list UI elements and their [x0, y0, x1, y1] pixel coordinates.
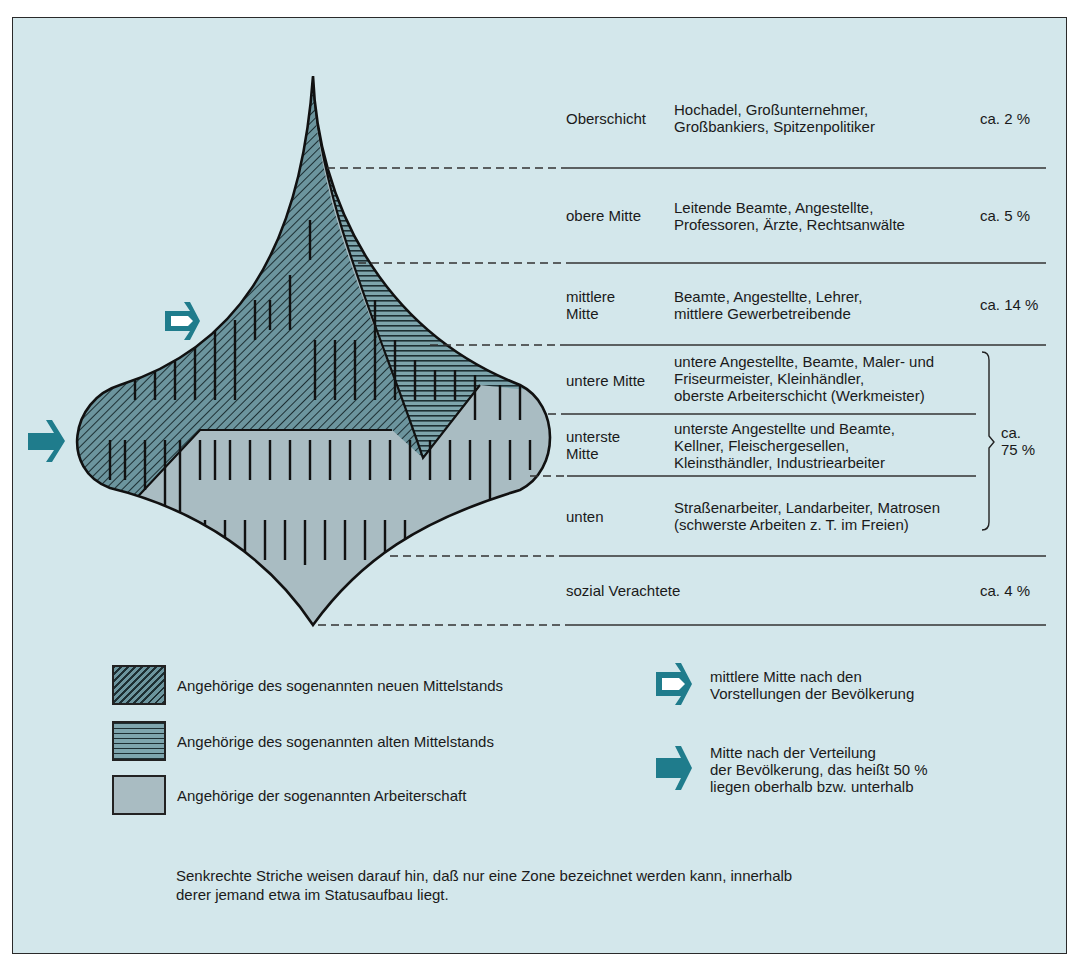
level-desc-obere-mitte: Leitende Beamte, Angestellte, Professore… [674, 199, 905, 233]
level-name-untere-mitte: untere Mitte [566, 372, 645, 389]
legend-open-arrow-icon [656, 663, 692, 705]
legend-label-distribution-middle: Mitte nach der Verteilung der Bevölkerun… [710, 744, 928, 795]
level-name-sozial-verachtete: sozial Verachtete [566, 582, 680, 599]
level-pct-oberschicht: ca. 2 % [980, 110, 1030, 127]
legend-label-old-middle-class: Angehörige des sogenannten alten Mittels… [177, 733, 494, 750]
legend-label-new-middle-class: Angehörige des sogenannten neuen Mittels… [177, 677, 503, 694]
level-desc-untere-mitte: untere Angestellte, Beamte, Maler- und F… [674, 353, 934, 404]
bracket-75-percent [982, 352, 994, 530]
legend-label-perceived-middle: mittlere Mitte nach den Vorstellungen de… [710, 668, 914, 702]
legend-label-working-class: Angehörige der sogenannten Arbeiterschaf… [177, 787, 466, 804]
footnote: Senkrechte Striche weisen darauf hin, da… [176, 866, 936, 904]
level-pct-obere-mitte: ca. 5 % [980, 207, 1030, 224]
level-desc-mittlere-mitte: Beamte, Angestellte, Lehrer, mittlere Ge… [674, 288, 862, 322]
level-desc-oberschicht: Hochadel, Großunternehmer, Großbankiers,… [674, 101, 875, 135]
level-pct-sozial-verachtete: ca. 4 % [980, 582, 1030, 599]
horizontal-hatch-swatch [112, 721, 166, 761]
diagonal-hatch-swatch [112, 665, 166, 705]
social-stratification-onion-diagram [0, 0, 1079, 969]
bracket-pct-label: ca. 75 % [1001, 424, 1035, 458]
level-name-obere-mitte: obere Mitte [566, 207, 641, 224]
level-name-oberschicht: Oberschicht [566, 110, 646, 127]
solid-gray-swatch [112, 775, 166, 815]
legend-solid-arrow-icon [656, 746, 692, 790]
level-name-mittlere-mitte: mittlere Mitte [566, 288, 615, 322]
level-name-unterste-mitte: unterste Mitte [566, 428, 620, 462]
level-desc-unten: Straßenarbeiter, Landarbeiter, Matrosen … [674, 499, 940, 533]
open-arrow-icon [165, 302, 200, 340]
solid-arrow-icon [28, 420, 65, 462]
level-name-unten: unten [566, 508, 604, 525]
level-desc-unterste-mitte: unterste Angestellte und Beamte, Kellner… [674, 420, 895, 471]
level-pct-mittlere-mitte: ca. 14 % [980, 296, 1038, 313]
